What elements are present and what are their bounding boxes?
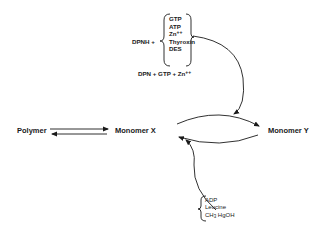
node-polymer: Polymer (17, 127, 47, 135)
diagram-arrows (0, 0, 325, 240)
node-monomer-x: Monomer X (115, 127, 156, 135)
effector-leucine: Leucine (205, 204, 235, 211)
activator-gtp: GTP (169, 15, 195, 23)
activator-arrow (193, 36, 244, 114)
effector-adp: ADP (205, 197, 235, 204)
activator-zn: Zn++ (169, 30, 195, 38)
effector-list: ADP Leucine CH3 HgOH (205, 197, 235, 219)
activator-prefix: DPNH + (132, 38, 155, 46)
effector-ch3hgoh: CH3 HgOH (205, 212, 235, 219)
activator-list: GTP ATP Zn++ Thyroxin DES (169, 15, 195, 53)
activator-alt-line: DPN + GTP + Zn++ (138, 70, 191, 78)
node-monomer-y: Monomer Y (268, 127, 309, 135)
activator-thyroxin: Thyroxin (169, 38, 195, 46)
activator-des: DES (169, 45, 195, 53)
y-to-x-arrow (179, 135, 258, 143)
x-to-y-arrow (177, 115, 259, 126)
